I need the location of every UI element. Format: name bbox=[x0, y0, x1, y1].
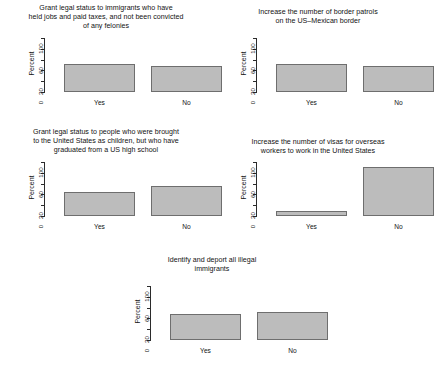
y-axis-label: Percent bbox=[240, 161, 247, 215]
bar-yes bbox=[170, 314, 241, 340]
y-axis-tick-label: 60 bbox=[37, 184, 44, 206]
plot-area: 02060100PercentYesNo bbox=[0, 0, 212, 120]
x-axis-tick-label: No bbox=[363, 99, 434, 106]
chart-panel-1: Grant legal status to immigrants who hav… bbox=[0, 0, 212, 120]
y-axis-label: Percent bbox=[240, 37, 247, 91]
chart-panel-5: Identify and deport all illegal immigran… bbox=[106, 250, 318, 369]
y-axis-tick-label: 60 bbox=[249, 184, 256, 206]
y-axis-tick-label: 20 bbox=[37, 205, 44, 227]
bar-no bbox=[257, 312, 328, 340]
bar-no bbox=[363, 66, 434, 92]
x-axis-tick-label: No bbox=[257, 347, 328, 354]
y-axis-tick-label: 100 bbox=[143, 286, 150, 308]
y-axis-label: Percent bbox=[134, 285, 141, 339]
plot-area: 02060100PercentYesNo bbox=[106, 250, 318, 369]
y-axis-tick-label: 20 bbox=[249, 205, 256, 227]
y-axis-label: Percent bbox=[28, 37, 35, 91]
y-axis-tick-label: 20 bbox=[37, 81, 44, 103]
bar-yes bbox=[276, 211, 347, 216]
bar-yes bbox=[64, 64, 135, 92]
x-axis-tick-label: Yes bbox=[276, 223, 347, 230]
y-axis-line bbox=[256, 162, 257, 217]
plot-area: 02060100PercentYesNo bbox=[0, 120, 212, 250]
x-axis-tick-label: Yes bbox=[64, 99, 135, 106]
x-axis-tick-label: Yes bbox=[170, 347, 241, 354]
x-axis-tick-label: Yes bbox=[64, 223, 135, 230]
plot-area: 02060100PercentYesNo bbox=[212, 120, 424, 250]
y-axis-line bbox=[150, 286, 151, 341]
y-axis-tick-label: 100 bbox=[37, 162, 44, 184]
y-axis-tick-label: 20 bbox=[143, 329, 150, 351]
bar-yes bbox=[276, 64, 347, 92]
y-axis-label: Percent bbox=[28, 161, 35, 215]
plot-area: 02060100PercentYesNo bbox=[212, 0, 424, 120]
y-axis-tick-label: 60 bbox=[143, 308, 150, 330]
y-axis-tick-label: 100 bbox=[249, 162, 256, 184]
chart-panel-2: Increase the number of border patrols on… bbox=[212, 0, 424, 120]
y-axis-line bbox=[256, 38, 257, 93]
x-axis-tick-label: Yes bbox=[276, 99, 347, 106]
y-axis-tick-label: 20 bbox=[249, 81, 256, 103]
chart-panel-3: Grant legal status to people who were br… bbox=[0, 120, 212, 250]
x-axis-tick-label: No bbox=[363, 223, 434, 230]
y-axis-tick-label: 100 bbox=[249, 38, 256, 60]
y-axis-tick-label: 100 bbox=[37, 38, 44, 60]
bar-no bbox=[363, 167, 434, 216]
chart-panel-4: Increase the number of visas for oversea… bbox=[212, 120, 424, 250]
y-axis-tick-label: 60 bbox=[249, 60, 256, 82]
y-axis-line bbox=[44, 162, 45, 217]
bar-yes bbox=[64, 192, 135, 216]
y-axis-tick-label: 60 bbox=[37, 60, 44, 82]
y-axis-line bbox=[44, 38, 45, 93]
